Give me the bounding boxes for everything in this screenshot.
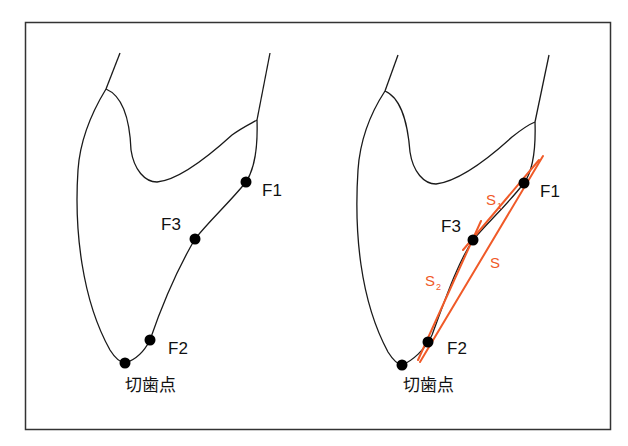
left-point-f1 xyxy=(241,177,252,188)
label-s2-base: S xyxy=(425,272,435,289)
right-panel: F1 F3 F2 切歯点 S S 1 S 2 xyxy=(357,55,560,395)
right-label-incisal-point: 切歯点 xyxy=(403,375,454,395)
right-point-f2 xyxy=(423,337,434,348)
label-s1-base: S xyxy=(486,191,496,208)
left-point-incisal xyxy=(120,358,131,369)
right-label-f1: F1 xyxy=(540,182,560,201)
label-s1: S 1 xyxy=(486,191,502,211)
left-label-f3: F3 xyxy=(161,215,181,234)
left-panel: F1 F3 F2 切歯点 xyxy=(77,53,282,395)
label-s2-subscript: 2 xyxy=(436,282,441,292)
left-point-f3 xyxy=(190,234,201,245)
left-label-incisal-point: 切歯点 xyxy=(125,375,176,395)
left-label-f1: F1 xyxy=(262,181,282,200)
label-s2: S 2 xyxy=(425,272,441,292)
label-s: S xyxy=(490,254,500,271)
right-point-f3 xyxy=(468,235,479,246)
left-label-f2: F2 xyxy=(168,339,188,358)
right-point-incisal xyxy=(397,360,408,371)
right-label-f3: F3 xyxy=(441,217,461,236)
right-point-f1 xyxy=(519,178,530,189)
label-s1-subscript: 1 xyxy=(497,201,502,211)
tooth-profile-diagram: F1 F3 F2 切歯点 F1 F3 F2 切歯点 S xyxy=(0,0,628,446)
right-label-f2: F2 xyxy=(447,339,467,358)
right-tooth-outline xyxy=(357,55,549,365)
left-tooth-outline xyxy=(77,53,270,363)
left-point-f2 xyxy=(145,335,156,346)
figure-frame xyxy=(26,23,611,430)
